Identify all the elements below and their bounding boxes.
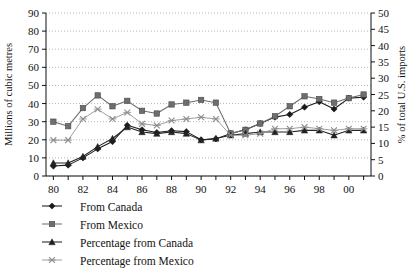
x-axis-tick-label: 98 [314, 183, 326, 195]
y-axis-tick-label: 40 [28, 98, 40, 110]
x-axis-tick-label: 90 [196, 183, 208, 195]
imports-line-chart: 0102030405060708090 05101520253035404550… [0, 0, 417, 278]
x-axis-tick-label: 88 [166, 183, 178, 195]
y2-axis-tick-label: 0 [378, 170, 384, 182]
y-axis-title: Millions of cubic metres [3, 43, 14, 146]
y2-axis-tick-label: 50 [378, 7, 390, 19]
data-point-square [302, 94, 307, 99]
data-point-square [331, 100, 336, 105]
data-point-square [125, 98, 130, 103]
x-axis-tick-label: 00 [343, 183, 355, 195]
data-point-square [169, 102, 174, 107]
y-axis-tick-label: 80 [28, 25, 40, 37]
data-point-square [287, 104, 292, 109]
y-axis-tick-label: 50 [28, 79, 40, 91]
x-axis-tick-label: 94 [255, 183, 267, 195]
data-point-square [49, 221, 54, 226]
data-point-square [51, 119, 56, 124]
x-axis-tick-label: 86 [137, 183, 149, 195]
y2-axis-title: % of total U.S. imports [396, 46, 407, 143]
y2-axis-tick-label: 30 [378, 72, 390, 84]
data-point-square [110, 104, 115, 109]
data-point-square [95, 93, 100, 98]
y-axis-tick-label: 10 [28, 152, 40, 164]
y2-axis-tick-label: 45 [378, 23, 390, 35]
legend-label: From Canada [80, 201, 142, 213]
data-point-square [139, 108, 144, 113]
x-axis-tick-label: 96 [284, 183, 296, 195]
y-axis-tick-label: 20 [28, 134, 40, 146]
x-axis-tick-label: 80 [48, 183, 60, 195]
x-axis-tick-label: 92 [225, 183, 236, 195]
y-axis-tick-label: 70 [28, 43, 40, 55]
data-point-square [65, 123, 70, 128]
y2-axis-tick-label: 15 [378, 121, 390, 133]
legend-label: From Mexico [80, 219, 143, 231]
y2-axis-tick-label: 5 [378, 154, 384, 166]
data-point-square [361, 92, 366, 97]
y2-axis-tick-label: 10 [378, 137, 390, 149]
x-axis-tick-label: 82 [77, 183, 88, 195]
data-point-square [317, 96, 322, 101]
y-axis-tick-label: 90 [28, 7, 40, 19]
data-point-square [258, 121, 263, 126]
legend-label: Percentage from Canada [80, 237, 193, 250]
y2-axis-tick-label: 35 [378, 56, 390, 68]
data-point-square [272, 114, 277, 119]
y2-axis-tick-label: 20 [378, 105, 390, 117]
chart-figure: 0102030405060708090 05101520253035404550… [0, 0, 417, 278]
data-point-square [198, 97, 203, 102]
data-point-square [213, 100, 218, 105]
data-point-square [80, 105, 85, 110]
y2-axis-tick-label: 40 [378, 40, 390, 52]
y-axis-tick-label: 0 [34, 170, 40, 182]
data-point-square [184, 100, 189, 105]
x-axis-tick-label: 84 [107, 183, 119, 195]
data-point-square [154, 111, 159, 116]
y-axis-tick-label: 30 [28, 116, 40, 128]
y2-axis-tick-label: 25 [378, 89, 390, 101]
data-point-square [346, 95, 351, 100]
y-axis-tick-label: 60 [28, 61, 40, 73]
legend-label: Percentage from Mexico [80, 255, 194, 268]
